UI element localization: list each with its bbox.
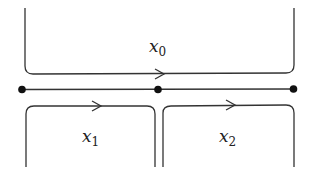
label-x0: x0 <box>149 38 166 58</box>
node-left <box>18 86 26 94</box>
diagram-canvas <box>0 0 318 173</box>
label-x1: x1 <box>82 128 99 148</box>
label-x0-base: x <box>149 36 159 56</box>
label-x0-sub: 0 <box>159 45 167 59</box>
label-x2: x2 <box>219 128 236 148</box>
label-x1-sub: 1 <box>92 135 100 149</box>
node-middle <box>154 86 162 94</box>
label-x2-base: x <box>219 126 229 146</box>
node-right <box>290 85 298 93</box>
label-x2-sub: 2 <box>229 135 237 149</box>
label-x1-base: x <box>82 126 92 146</box>
